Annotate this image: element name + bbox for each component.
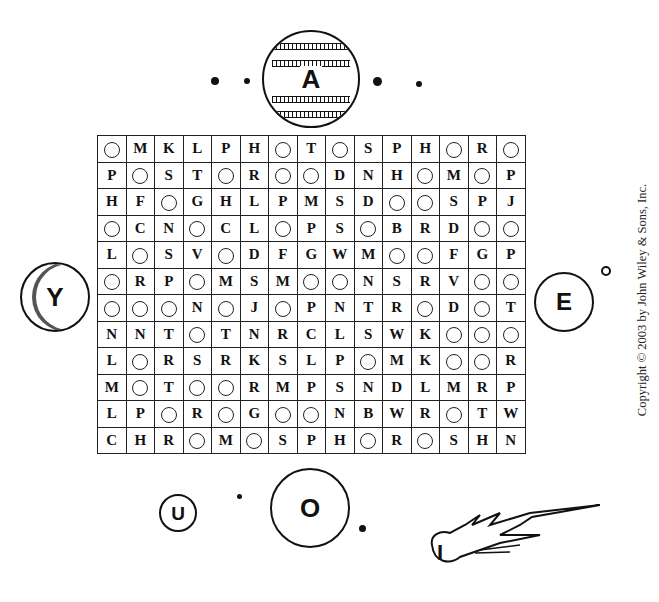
grid-cell[interactable]: G	[468, 242, 497, 269]
grid-cell[interactable]: T	[212, 321, 241, 348]
grid-cell[interactable]	[126, 374, 155, 401]
grid-cell[interactable]: F	[269, 242, 298, 269]
grid-cell[interactable]: M	[212, 268, 241, 295]
grid-cell[interactable]: S	[440, 427, 469, 454]
grid-cell[interactable]: R	[468, 136, 497, 163]
grid-cell[interactable]	[98, 215, 127, 242]
grid-cell[interactable]: P	[297, 427, 326, 454]
grid-cell[interactable]: P	[383, 136, 412, 163]
grid-cell[interactable]: M	[383, 348, 412, 375]
grid-cell[interactable]: L	[326, 321, 355, 348]
grid-cell[interactable]: T	[297, 136, 326, 163]
grid-cell[interactable]	[383, 242, 412, 269]
grid-cell[interactable]	[497, 136, 526, 163]
grid-cell[interactable]: S	[326, 189, 355, 216]
grid-cell[interactable]	[269, 215, 298, 242]
grid-cell[interactable]: P	[297, 215, 326, 242]
grid-cell[interactable]	[497, 321, 526, 348]
grid-cell[interactable]: L	[98, 348, 127, 375]
grid-cell[interactable]: P	[297, 374, 326, 401]
grid-cell[interactable]: S	[155, 242, 184, 269]
grid-cell[interactable]	[497, 215, 526, 242]
grid-cell[interactable]	[212, 401, 241, 428]
grid-cell[interactable]: D	[440, 215, 469, 242]
grid-cell[interactable]: N	[354, 268, 383, 295]
grid-cell[interactable]: S	[269, 427, 298, 454]
grid-cell[interactable]	[411, 242, 440, 269]
grid-cell[interactable]	[183, 215, 212, 242]
grid-cell[interactable]: T	[497, 295, 526, 322]
grid-cell[interactable]: T	[354, 295, 383, 322]
grid-cell[interactable]: S	[440, 189, 469, 216]
grid-cell[interactable]: R	[183, 401, 212, 428]
grid-cell[interactable]: S	[269, 348, 298, 375]
grid-cell[interactable]: R	[240, 162, 269, 189]
grid-cell[interactable]	[212, 242, 241, 269]
grid-cell[interactable]: S	[326, 374, 355, 401]
grid-cell[interactable]	[354, 427, 383, 454]
grid-cell[interactable]: S	[155, 162, 184, 189]
grid-cell[interactable]: L	[297, 348, 326, 375]
grid-cell[interactable]: L	[183, 136, 212, 163]
grid-cell[interactable]: N	[126, 321, 155, 348]
grid-cell[interactable]: G	[297, 242, 326, 269]
grid-cell[interactable]: S	[240, 268, 269, 295]
grid-cell[interactable]: H	[326, 427, 355, 454]
grid-cell[interactable]: T	[155, 374, 184, 401]
grid-cell[interactable]: L	[98, 401, 127, 428]
grid-cell[interactable]	[126, 295, 155, 322]
grid-cell[interactable]: T	[468, 401, 497, 428]
grid-cell[interactable]: M	[212, 427, 241, 454]
grid-cell[interactable]: H	[411, 136, 440, 163]
grid-cell[interactable]: W	[497, 401, 526, 428]
grid-cell[interactable]	[155, 189, 184, 216]
grid-cell[interactable]	[183, 268, 212, 295]
grid-cell[interactable]: W	[326, 242, 355, 269]
grid-cell[interactable]: M	[269, 374, 298, 401]
grid-cell[interactable]	[440, 136, 469, 163]
grid-cell[interactable]: S	[183, 348, 212, 375]
grid-cell[interactable]: C	[126, 215, 155, 242]
grid-cell[interactable]: P	[269, 189, 298, 216]
grid-cell[interactable]: K	[155, 136, 184, 163]
grid-cell[interactable]	[126, 162, 155, 189]
grid-cell[interactable]	[440, 321, 469, 348]
grid-cell[interactable]	[183, 427, 212, 454]
grid-cell[interactable]: N	[98, 321, 127, 348]
grid-cell[interactable]: T	[183, 162, 212, 189]
grid-cell[interactable]	[126, 242, 155, 269]
grid-cell[interactable]: M	[440, 162, 469, 189]
grid-cell[interactable]: R	[468, 374, 497, 401]
grid-cell[interactable]: P	[468, 189, 497, 216]
grid-cell[interactable]	[468, 295, 497, 322]
grid-cell[interactable]	[240, 427, 269, 454]
grid-cell[interactable]: N	[354, 162, 383, 189]
grid-cell[interactable]	[411, 295, 440, 322]
grid-cell[interactable]: M	[98, 374, 127, 401]
grid-cell[interactable]: D	[354, 189, 383, 216]
grid-cell[interactable]: R	[411, 401, 440, 428]
grid-cell[interactable]: K	[411, 321, 440, 348]
grid-cell[interactable]: P	[212, 136, 241, 163]
grid-cell[interactable]	[269, 136, 298, 163]
grid-cell[interactable]	[269, 295, 298, 322]
grid-cell[interactable]: G	[240, 401, 269, 428]
grid-cell[interactable]: V	[440, 268, 469, 295]
grid-cell[interactable]: G	[183, 189, 212, 216]
grid-cell[interactable]: K	[411, 348, 440, 375]
grid-cell[interactable]: R	[126, 268, 155, 295]
grid-cell[interactable]	[411, 189, 440, 216]
grid-cell[interactable]: R	[383, 427, 412, 454]
grid-cell[interactable]: R	[411, 215, 440, 242]
grid-cell[interactable]: W	[383, 401, 412, 428]
grid-cell[interactable]: H	[383, 162, 412, 189]
grid-cell[interactable]: C	[98, 427, 127, 454]
grid-cell[interactable]	[326, 136, 355, 163]
grid-cell[interactable]	[98, 136, 127, 163]
grid-cell[interactable]: R	[269, 321, 298, 348]
grid-cell[interactable]: F	[440, 242, 469, 269]
grid-cell[interactable]: S	[354, 321, 383, 348]
grid-cell[interactable]	[326, 268, 355, 295]
grid-cell[interactable]: P	[497, 162, 526, 189]
grid-cell[interactable]	[98, 268, 127, 295]
